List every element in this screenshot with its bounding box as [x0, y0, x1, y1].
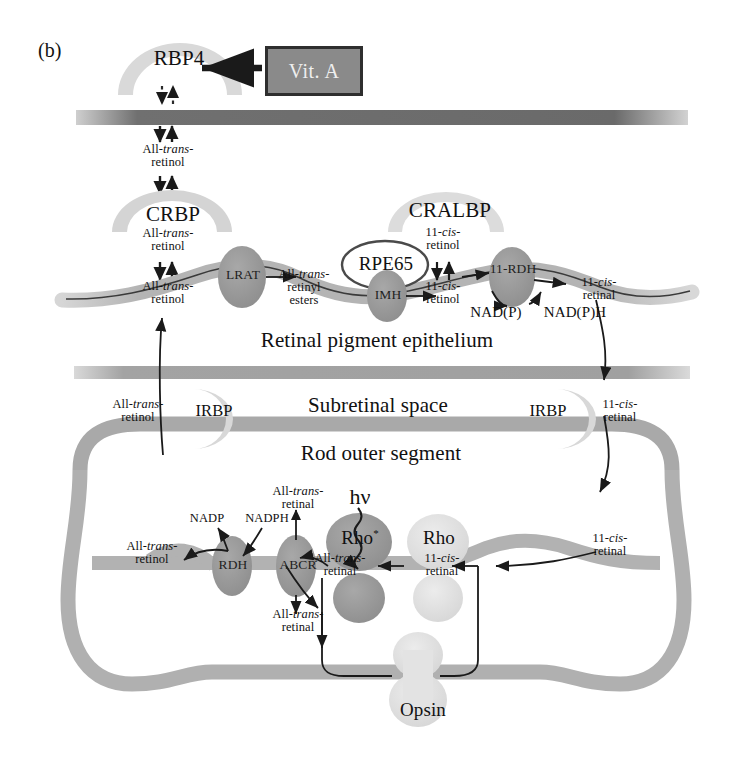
rbp4-exchange-arrows	[162, 86, 173, 104]
photon-label: hν	[332, 486, 388, 509]
rpe-compartment-label: Retinal pigment epithelium	[222, 330, 532, 352]
subretinal-compartment-label: Subretinal space	[268, 395, 488, 417]
rho-active-label: Rho*	[330, 528, 390, 548]
rho-blob-bottom	[413, 574, 463, 622]
irbp-left-label: IRBP	[178, 402, 250, 419]
label-cis-al-rho: 11-cis-retinal	[400, 552, 484, 578]
label-atr-retinyl-esters: All-trans-retinylesters	[248, 268, 360, 307]
rpe-apical-membrane	[74, 366, 690, 379]
label-atr-ol-crbp-upper: All-trans-retinol	[108, 227, 228, 253]
nadp-ox-label: NAD(P)	[460, 305, 532, 321]
label-atr-al-abcr-lower: All-trans-retinal	[250, 608, 346, 634]
vitamin-a-source-box: Vit. A	[265, 46, 363, 96]
label-atr-ol-ros: All-trans-retinol	[100, 540, 204, 566]
label-atr-ol-blood: All-trans-retinol	[108, 143, 228, 169]
nadph-label: NADPH	[234, 512, 300, 525]
diagram-graphics	[0, 0, 751, 767]
label-cis-al-ros: 11-cis-retinal	[568, 532, 652, 558]
panel-label: (b)	[38, 40, 62, 61]
label-atr-al-rho: All-trans-retinal	[292, 552, 388, 578]
label-cis-ol-lower: 11-cis-retinol	[400, 280, 486, 306]
cralbp-label: CRALBP	[390, 200, 510, 222]
figure-canvas: (b) Vit. A RBP4 CRBP CRALBP RPE65 LRAT I…	[0, 0, 751, 767]
irbp-right-label: IRBP	[512, 402, 584, 419]
rho-label: Rho	[410, 528, 468, 548]
nadp-red-label: NAD(P)H	[532, 305, 618, 321]
rpe65-label: RPE65	[355, 254, 417, 274]
label-cis-al-rpe: 11-cis-retinal	[556, 276, 642, 302]
crbp-label: CRBP	[118, 204, 228, 226]
label-atr-ol-irbp: All-trans-retinol	[92, 398, 184, 424]
nadp-label: NADP	[178, 512, 236, 525]
atr-ol-uptake-arrow	[160, 318, 163, 455]
rho-active-text: Rho	[341, 527, 373, 548]
rdh-label: RDH	[206, 558, 260, 572]
label-cis-ol-upper: 11-cis-retinol	[400, 226, 486, 252]
rdh11-label: 11-RDH	[478, 262, 548, 276]
rho-active-asterisk: *	[373, 527, 379, 539]
opsin-label: Opsin	[388, 700, 458, 720]
choroid-membrane	[76, 110, 688, 125]
ros-compartment-label: Rod outer segment	[276, 443, 486, 465]
rbp4-label: RBP4	[124, 48, 234, 70]
vitamin-a-label: Vit. A	[289, 60, 340, 83]
label-atr-ol-crbp-lower: All-trans-retinol	[108, 280, 228, 306]
label-cis-al-irbp: 11-cis-retinal	[578, 398, 662, 424]
